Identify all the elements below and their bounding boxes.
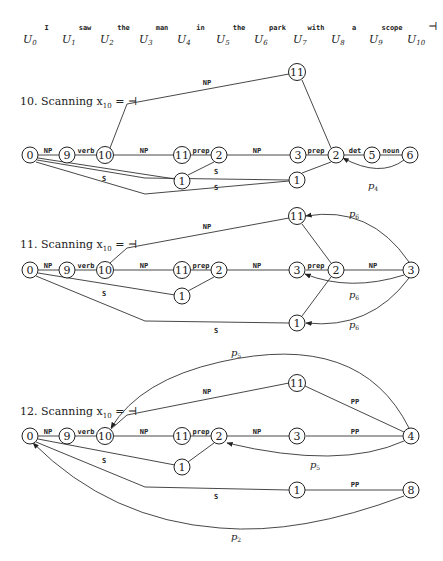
edge-label: NP <box>44 262 52 270</box>
state-node: 11 <box>289 375 306 392</box>
sentence-word: park <box>269 24 287 32</box>
svg-text:10: 10 <box>98 264 112 277</box>
pointer-label: p4 <box>368 180 378 192</box>
svg-text:0: 0 <box>27 264 34 277</box>
svg-text:6: 6 <box>407 149 414 162</box>
state-node: 2 <box>328 262 344 278</box>
edge-label: S <box>214 168 218 176</box>
edge-label: verb <box>78 147 95 155</box>
svg-text:8: 8 <box>408 484 415 497</box>
pointer-label: p6 <box>349 319 359 331</box>
state-node: 3 <box>403 262 419 278</box>
edge-line <box>188 443 214 462</box>
edge-label: S <box>102 175 106 183</box>
state-node: 1 <box>174 173 190 189</box>
svg-text:10: 10 <box>98 430 112 443</box>
sentence-word: saw <box>79 24 92 32</box>
edge-label: S <box>214 493 218 501</box>
svg-text:1: 1 <box>294 484 301 497</box>
edge-label: NP <box>203 223 211 231</box>
position-label: U5 <box>216 33 230 47</box>
position-label: U2 <box>100 33 114 47</box>
svg-text:9: 9 <box>64 264 71 277</box>
gss-diagram-canvas: U0U1U2U3U4U5U6U7U8U9U10Isawthemaninthepa… <box>0 0 443 561</box>
svg-text:10: 10 <box>98 149 112 162</box>
state-node: 10 <box>97 262 114 279</box>
state-node: 9 <box>59 147 75 163</box>
edge-line <box>302 277 331 316</box>
state-node: 9 <box>59 262 75 278</box>
svg-text:1: 1 <box>179 461 186 474</box>
pointer-arrow <box>305 274 404 283</box>
svg-text:3: 3 <box>408 264 415 277</box>
diagram-title: 11. Scanning x10 = ⊣ <box>20 238 137 253</box>
sentence-word: in <box>196 24 204 32</box>
position-label: U10 <box>407 33 426 47</box>
edge-line <box>302 224 331 263</box>
svg-text:3: 3 <box>295 149 302 162</box>
edge-label: NP <box>203 79 211 87</box>
edge-line <box>36 276 289 323</box>
edge-label: S <box>214 327 218 335</box>
svg-text:3: 3 <box>294 430 301 443</box>
edge-label: NP <box>253 262 261 270</box>
edge-line <box>305 386 404 432</box>
pointer-label: p5 <box>310 459 320 471</box>
pointer-arrow <box>227 441 404 456</box>
edge-line <box>188 277 214 291</box>
state-node: 6 <box>402 147 418 163</box>
svg-text:11: 11 <box>175 264 189 277</box>
state-node: 0 <box>22 262 38 278</box>
svg-text:1: 1 <box>294 174 301 187</box>
edge-label: NP <box>44 428 52 436</box>
sentence-word: a <box>352 24 356 32</box>
state-node: 11 <box>174 147 191 164</box>
svg-text:4: 4 <box>408 430 415 443</box>
edge-label: NP <box>140 147 148 155</box>
state-node: 11 <box>174 262 191 279</box>
edge-label: det <box>349 147 362 155</box>
edge-label: NP <box>44 147 52 155</box>
edge-label: PP <box>351 398 359 406</box>
svg-text:11: 11 <box>290 377 304 390</box>
diagram-title: 10. Scanning x10 = ⊣ <box>20 95 137 110</box>
edge-label: NP <box>253 147 261 155</box>
state-node: 10 <box>97 428 114 445</box>
edge-label: PP <box>351 428 359 436</box>
state-node: 10 <box>97 147 114 164</box>
position-label: U3 <box>139 33 153 47</box>
edge-label: verb <box>78 262 95 270</box>
edge-line <box>302 80 331 148</box>
svg-text:9: 9 <box>64 430 71 443</box>
pointer-label: p2 <box>231 531 241 543</box>
edge-label: NP <box>140 262 148 270</box>
svg-text:0: 0 <box>27 430 34 443</box>
state-node: 3 <box>289 428 305 444</box>
sentence-word: the <box>117 24 130 32</box>
svg-text:9: 9 <box>64 149 71 162</box>
state-node: 9 <box>59 428 75 444</box>
edge-line <box>110 74 289 148</box>
svg-text:1: 1 <box>179 175 186 188</box>
sentence-word: the <box>233 24 246 32</box>
position-label: U8 <box>331 33 345 47</box>
edge-label: S <box>214 184 218 192</box>
pointer-label: p5 <box>231 347 241 359</box>
state-node: 2 <box>211 147 227 163</box>
state-node: 3 <box>289 262 305 278</box>
pointer-label: p6 <box>349 289 359 301</box>
edge-label: prep <box>308 147 325 155</box>
svg-text:11: 11 <box>175 149 189 162</box>
svg-text:11: 11 <box>290 66 304 79</box>
position-label: U6 <box>254 33 268 47</box>
svg-text:2: 2 <box>216 264 223 277</box>
state-node: 1 <box>289 315 305 331</box>
state-node: 1 <box>289 482 305 498</box>
position-label: U1 <box>62 33 76 47</box>
state-node: 2 <box>328 147 344 163</box>
position-label: U7 <box>293 33 307 47</box>
state-node: 1 <box>289 172 305 188</box>
diagram-title: 12. Scanning x10 = ⊣ <box>20 405 137 420</box>
edge-label: S <box>102 290 106 298</box>
state-node: 1 <box>174 288 190 304</box>
